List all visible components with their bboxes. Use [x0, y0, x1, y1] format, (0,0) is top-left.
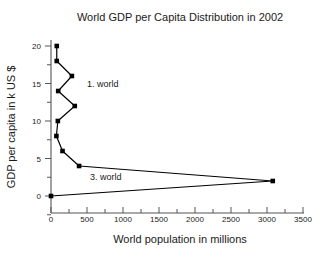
data-point-marker [49, 194, 54, 199]
y-tick-label: 0 [37, 192, 42, 201]
data-point-marker [56, 119, 61, 124]
x-tick-label: 3000 [258, 215, 276, 224]
data-point-marker [54, 134, 59, 139]
data-point-marker [56, 89, 61, 94]
data-point-marker [60, 149, 65, 154]
data-point-marker [54, 59, 59, 64]
data-point-marker [72, 104, 77, 109]
x-tick-label: 3500 [294, 215, 312, 224]
data-point-marker [54, 44, 59, 49]
x-tick-label: 500 [80, 215, 94, 224]
y-tick-label: 15 [32, 80, 41, 89]
chart-container: World GDP per Capita Distribution in 200… [0, 0, 319, 260]
chart-title: World GDP per Capita Distribution in 200… [77, 11, 283, 23]
y-tick-label: 20 [32, 42, 41, 51]
x-tick-label: 1000 [114, 215, 132, 224]
y-axis-label: GDP per capita in k US $ [5, 66, 17, 189]
x-axis-label: World population in millions [113, 233, 247, 245]
x-tick-label: 2000 [186, 215, 204, 224]
data-point-marker [77, 164, 82, 169]
x-tick-label: 2500 [222, 215, 240, 224]
series-annotation-label: 3. world [90, 172, 122, 182]
y-tick-label: 5 [37, 155, 42, 164]
data-point-marker [270, 179, 275, 184]
x-tick-label: 0 [49, 215, 54, 224]
x-tick-label: 1500 [150, 215, 168, 224]
gdp-distribution-chart: World GDP per Capita Distribution in 200… [0, 0, 319, 260]
data-point-marker [70, 74, 75, 79]
series-annotation-label: 1. world [87, 79, 119, 89]
y-tick-label: 10 [32, 117, 41, 126]
